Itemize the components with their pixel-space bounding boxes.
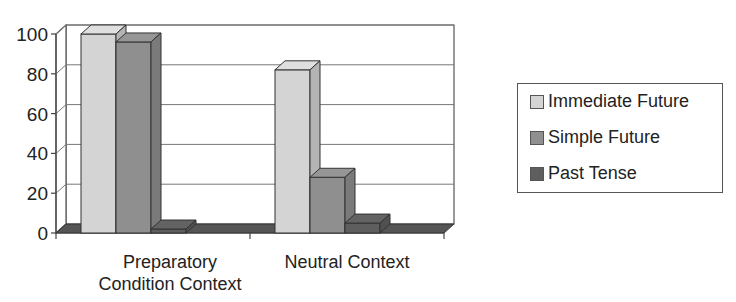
legend-item-immediate-future: Immediate Future [530, 91, 689, 112]
bar-front [116, 42, 151, 233]
y-tick-label: 0 [37, 223, 48, 244]
bar-front [81, 34, 116, 233]
side-wall [56, 25, 66, 233]
legend-item-simple-future: Simple Future [530, 127, 660, 148]
legend-swatch [530, 95, 544, 109]
bar-front [151, 229, 186, 233]
y-tick-label: 60 [27, 104, 48, 125]
y-tick-label: 20 [27, 183, 48, 204]
legend-item-past-tense: Past Tense [530, 163, 637, 184]
y-tick-label: 80 [27, 64, 48, 85]
y-tick-label: 100 [16, 24, 48, 45]
x-category-label-1: Neutral Context [262, 251, 432, 273]
bar-front [310, 177, 345, 233]
bar-side [151, 33, 161, 233]
bar-front [275, 70, 310, 233]
y-tick-label: 40 [27, 143, 48, 164]
legend-swatch [530, 131, 544, 145]
legend: Immediate Future Simple Future Past Tens… [517, 83, 723, 193]
legend-swatch [530, 167, 544, 181]
chart-root: 020406080100 Preparatory Condition Conte… [0, 0, 736, 302]
bar-front [345, 223, 380, 233]
x-category-label-0: Preparatory Condition Context [70, 251, 270, 295]
